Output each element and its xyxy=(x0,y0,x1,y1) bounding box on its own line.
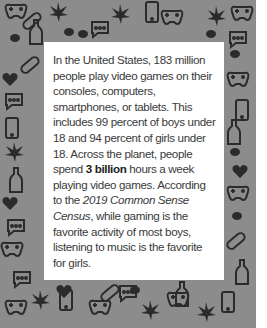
fact-callout-box: In the United States, 183 million people… xyxy=(44,42,224,280)
paragraph-text: In the United States, 183 million people… xyxy=(53,53,215,175)
emphasis-stat: 3 billion xyxy=(86,162,127,175)
fact-paragraph: In the United States, 183 million people… xyxy=(53,52,216,270)
